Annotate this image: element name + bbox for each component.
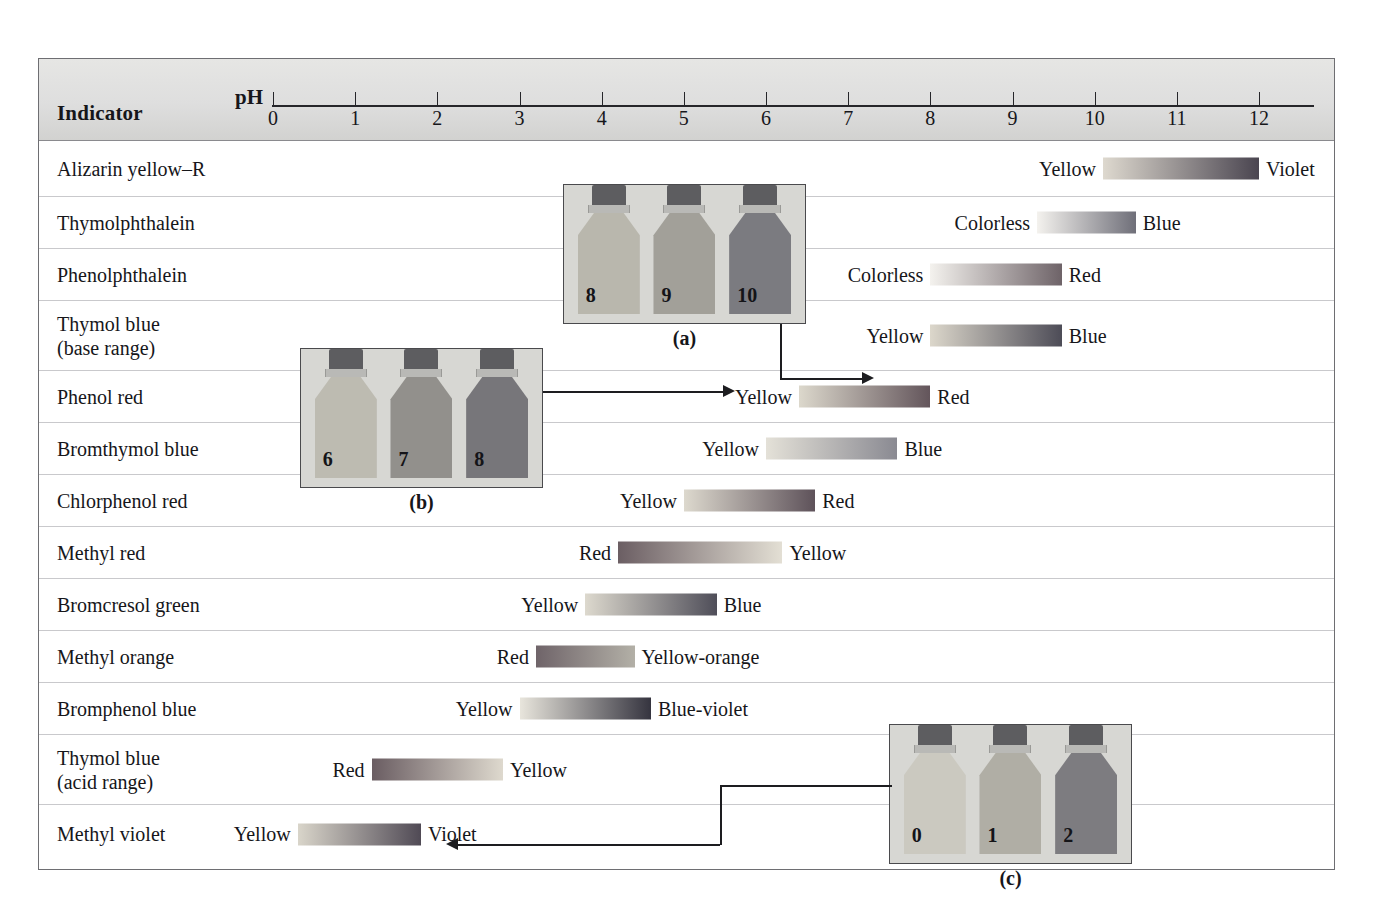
bottle-cap-icon [329,349,363,369]
bottle-neck [476,369,518,377]
bottle-body: 8 [578,213,640,314]
acid-color-label: Yellow [859,324,930,347]
indicator-table: Indicator pH 0123456789101112 Alizarin y… [38,58,1335,870]
acid-color-label: Red [325,758,371,781]
bottle-ph-label: 10 [737,284,757,307]
bottle-neck [739,205,781,213]
indicator-range: YellowRed [728,385,977,408]
table-row: Methyl orangeRedYellow-orange [39,631,1334,683]
bottle-cap-icon [918,725,952,745]
acid-color-label: Yellow [449,697,520,720]
ph-indicator-figure: Indicator pH 0123456789101112 Alizarin y… [38,58,1335,870]
table-row: Chlorphenol redYellowRed [39,475,1334,527]
bottle-ph-label: 9 [661,284,671,307]
bottle-body: 7 [390,377,452,478]
table-row: Thymol blue (acid range)RedYellow [39,735,1334,805]
acid-color-label: Yellow [695,437,766,460]
arrowhead-c [446,838,458,850]
bottle-body: 6 [315,377,377,478]
indicator-name: Thymol blue (acid range) [57,745,160,794]
base-color-label: Violet [1259,157,1322,180]
base-color-label: Blue [717,593,769,616]
photo-panel-b: 678(b) [300,348,543,488]
acid-color-label: Red [490,645,536,668]
base-color-label: Yellow [503,758,574,781]
bottle-cap-icon [667,185,701,205]
bottle-ph-label: 6 [323,448,333,471]
acid-color-label: Yellow [1032,157,1103,180]
bottle-neck [663,205,705,213]
indicator-bottle: 0 [904,725,966,854]
acid-color-label: Yellow [514,593,585,616]
table-row: Methyl redRedYellow [39,527,1334,579]
ph-tick-12 [1259,92,1260,105]
indicator-name: Bromcresol green [57,592,200,616]
bottle-neck [400,369,442,377]
color-transition-bar [618,542,782,564]
table-row: Bromthymol blueYellowBlue [39,423,1334,475]
bottle-neck [989,745,1031,753]
photo-caption-b: (b) [301,491,542,514]
ph-tick-7 [848,92,849,105]
indicator-bottle: 9 [653,185,715,314]
indicator-range: YellowRed [613,489,862,512]
ph-tick-label-3: 3 [503,107,537,130]
color-transition-bar [930,325,1061,347]
indicator-name: Bromphenol blue [57,696,196,720]
connector-a-horizontal [780,378,862,380]
acid-color-label: Yellow [728,385,799,408]
indicator-bottle: 7 [390,349,452,478]
base-color-label: Blue [897,437,949,460]
bottle-row: 012 [890,725,1131,863]
bottle-ph-label: 8 [586,284,596,307]
table-header: Indicator pH 0123456789101112 [39,59,1334,141]
base-color-label: Red [930,385,976,408]
connector-c-horizontal-top [720,785,892,787]
column-header-indicator: Indicator [57,101,143,126]
bottle-row: 8910 [564,185,805,323]
ph-tick-label-12: 12 [1242,107,1276,130]
ph-tick-label-2: 2 [420,107,454,130]
bottle-neck [1065,745,1107,753]
base-color-label: Blue [1136,211,1188,234]
bottle-ph-label: 8 [474,448,484,471]
acid-color-label: Red [572,541,618,564]
photo-panel-c: 012(c) [889,724,1132,864]
indicator-name: Phenol red [57,384,143,408]
table-row: Methyl violetYellowViolet [39,805,1334,863]
indicator-bottle: 1 [979,725,1041,854]
indicator-range: YellowBlue [859,324,1113,347]
connector-c-vertical [720,785,722,845]
indicator-bottle: 10 [729,185,791,314]
ph-tick-10 [1095,92,1096,105]
indicator-range: YellowBlue [514,593,768,616]
acid-color-label: Colorless [948,211,1038,234]
color-transition-bar [520,698,651,720]
color-transition-bar [1103,158,1259,180]
bottle-cap-icon [480,349,514,369]
base-color-label: Yellow [782,541,853,564]
indicator-range: ColorlessRed [841,263,1108,286]
color-transition-bar [536,646,635,668]
indicator-range: RedYellow-orange [490,645,767,668]
photo-caption-a: (a) [564,327,805,350]
bottle-cap-icon [743,185,777,205]
acid-color-label: Colorless [841,263,931,286]
bottle-cap-icon [404,349,438,369]
color-transition-bar [298,823,421,845]
ph-tick-9 [1013,92,1014,105]
ph-tick-label-1: 1 [338,107,372,130]
bottle-cap-icon [993,725,1027,745]
ph-tick-label-5: 5 [667,107,701,130]
bottle-ph-label: 7 [398,448,408,471]
bottle-ph-label: 0 [912,824,922,847]
indicator-range: RedYellow [325,758,574,781]
ph-tick-label-0: 0 [256,107,290,130]
ph-tick-5 [684,92,685,105]
indicator-name: Chlorphenol red [57,488,188,512]
indicator-bottle: 8 [466,349,528,478]
indicator-range: RedYellow [572,541,853,564]
indicator-range: YellowViolet [1032,157,1322,180]
acid-color-label: Yellow [227,823,298,846]
ph-tick-11 [1177,92,1178,105]
